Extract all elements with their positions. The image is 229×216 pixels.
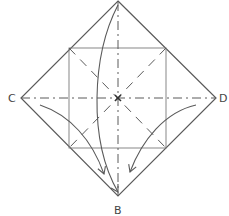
c-to-b-arrow [40, 105, 104, 174]
origami-diagram: C D B [0, 0, 229, 216]
d-to-b-arrow [130, 105, 196, 172]
label-b: B [114, 204, 122, 216]
label-c: C [8, 92, 16, 105]
label-d: D [219, 92, 227, 105]
